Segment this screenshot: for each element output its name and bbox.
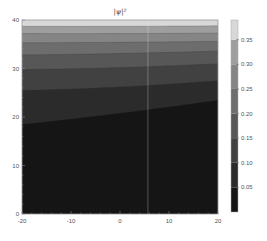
colorbar-tick-label: 0.35 [241,37,253,43]
colorbar-tick-label: 0.15 [241,135,253,141]
contour-plot: -20-1001020 010203040 |ψ|² 0.050.100.150… [0,0,267,241]
colorbar-tick-label: 0.05 [241,184,253,190]
x-tick-label: -10 [67,218,76,224]
y-tick-label: 0 [16,211,20,217]
colorbar-tick-label: 0.20 [241,111,253,117]
y-tick-label: 40 [12,17,19,23]
x-tick-label: -20 [18,218,27,224]
colorbar-segment [231,163,238,188]
colorbar-ticks: 0.050.100.150.200.250.300.35 [236,37,253,191]
colorbar-segment [231,64,238,89]
colorbar-segment [231,89,238,114]
colorbar-segment [231,187,238,212]
colorbar-tick-label: 0.30 [241,61,253,67]
colorbar [231,20,238,212]
y-tick-label: 10 [12,163,19,169]
y-tick-label: 30 [12,66,19,72]
chart-title: |ψ|² [113,8,126,16]
y-tick-label: 20 [12,114,19,120]
x-tick-label: 10 [166,218,173,224]
colorbar-segment [231,138,238,163]
x-tick-label: 0 [118,218,122,224]
band-7 [22,20,218,26]
colorbar-segment [231,40,238,65]
colorbar-tick-label: 0.25 [241,86,253,92]
plot-bands [22,20,218,214]
colorbar-tick-label: 0.10 [241,160,253,166]
colorbar-segment [231,114,238,139]
x-tick-label: 20 [215,218,222,224]
colorbar-segment [231,20,238,40]
